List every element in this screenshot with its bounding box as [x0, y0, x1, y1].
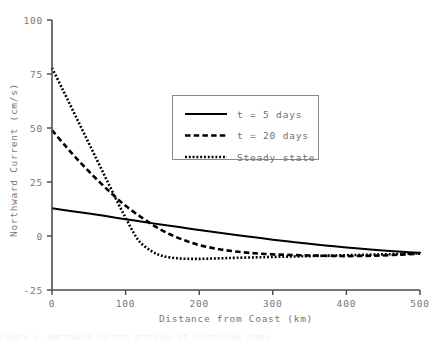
legend-box — [173, 96, 319, 160]
x-tick-label: 400 — [337, 298, 357, 309]
x-tick-label: 300 — [263, 298, 283, 309]
x-axis-title: Distance from Coast (km) — [159, 313, 313, 324]
x-tick-label: 500 — [410, 298, 430, 309]
legend-label-1: t = 5 days — [237, 109, 302, 120]
x-tick-label: 0 — [49, 298, 56, 309]
y-tick-label: 100 — [23, 15, 43, 26]
chart-legend: t = 5 dayst = 20 daysSteady state — [173, 96, 319, 163]
y-tick-label: 25 — [30, 177, 43, 188]
x-axis-ticks: 0100200300400500 — [49, 290, 430, 309]
plot-area: -250255075100 0100200300400500 — [23, 15, 429, 310]
y-axis-title: Northward Current (cm/s) — [8, 83, 19, 237]
y-tick-label: 50 — [30, 123, 43, 134]
x-tick-label: 100 — [116, 298, 136, 309]
figure-caption-clipped: Figure 3. Northward current profiles at … — [0, 334, 433, 341]
series-line-1 — [52, 208, 420, 253]
x-tick-label: 200 — [189, 298, 209, 309]
figure-container: -250255075100 0100200300400500 Distance … — [0, 0, 433, 341]
y-tick-label: 75 — [30, 69, 43, 80]
y-tick-label: -25 — [23, 285, 43, 296]
chart-canvas: -250255075100 0100200300400500 Distance … — [0, 0, 433, 341]
y-tick-label: 0 — [36, 231, 43, 242]
y-axis-ticks: -250255075100 — [23, 15, 52, 296]
legend-label-2: t = 20 days — [237, 130, 309, 141]
legend-label-3: Steady state — [237, 152, 315, 163]
